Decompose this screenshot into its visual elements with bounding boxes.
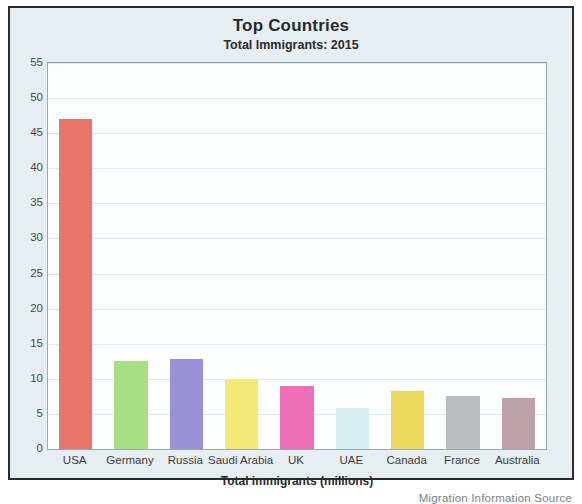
bar bbox=[446, 396, 479, 449]
x-axis-tick-label: Saudi Arabia bbox=[208, 454, 273, 466]
y-axis-tick-label: 40 bbox=[10, 161, 43, 173]
y-axis-tick-label: 25 bbox=[10, 267, 43, 279]
bar bbox=[170, 359, 203, 449]
bar bbox=[502, 398, 535, 449]
y-axis-tick-label: 10 bbox=[10, 372, 43, 384]
x-axis-tick-label: UAE bbox=[340, 454, 364, 466]
y-axis-tick-label: 50 bbox=[10, 91, 43, 103]
y-axis-tick-label: 35 bbox=[10, 196, 43, 208]
y-axis-tick-label: 20 bbox=[10, 302, 43, 314]
y-axis-tick-label: 45 bbox=[10, 126, 43, 138]
y-axis-tick-label: 15 bbox=[10, 337, 43, 349]
x-axis-tick-label: Russia bbox=[168, 454, 203, 466]
bar-series bbox=[48, 63, 546, 449]
x-axis-tick-label: Canada bbox=[387, 454, 427, 466]
x-axis-tick-label: UK bbox=[288, 454, 304, 466]
chart-subtitle: Total Immigrants: 2015 bbox=[10, 38, 572, 52]
x-axis-tick-label: USA bbox=[63, 454, 87, 466]
bar bbox=[280, 386, 313, 449]
bar bbox=[59, 119, 92, 449]
source-credit: Migration Information Source bbox=[419, 492, 572, 504]
x-axis-tick-labels: USAGermanyRussiaSaudi ArabiaUKUAECanadaF… bbox=[47, 454, 547, 472]
plot-area bbox=[47, 62, 547, 450]
y-axis-tick-label: 30 bbox=[10, 231, 43, 243]
bar bbox=[336, 408, 369, 449]
bar bbox=[114, 361, 147, 449]
bar bbox=[391, 391, 424, 449]
y-axis-tick-label: 55 bbox=[10, 56, 43, 68]
y-axis-tick-label: 0 bbox=[10, 442, 43, 454]
chart-title: Top Countries bbox=[10, 16, 572, 36]
x-axis-tick-label: Germany bbox=[106, 454, 153, 466]
chart-figure: Top Countries Total Immigrants: 2015 051… bbox=[8, 6, 574, 480]
bar bbox=[225, 379, 258, 449]
y-axis-tick-label: 5 bbox=[10, 407, 43, 419]
x-axis-tick-label: Australia bbox=[495, 454, 540, 466]
y-axis-tick-labels: 0510152025303540455055 bbox=[10, 62, 43, 450]
x-axis-tick-label: France bbox=[444, 454, 480, 466]
x-axis-title: Total immigrants (millions) bbox=[47, 474, 547, 488]
